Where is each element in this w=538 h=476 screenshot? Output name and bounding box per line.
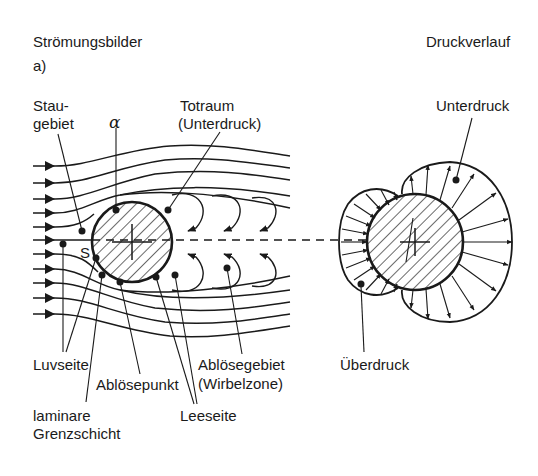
label-leeseite: Leeseite (180, 407, 237, 424)
label-staugebiet-1: Stau- (33, 97, 69, 114)
title-druckverlauf: Druckverlauf (426, 33, 511, 50)
label-unterdruck: Unterdruck (436, 97, 510, 114)
label-totraum-2: (Unterdruck) (178, 115, 261, 132)
label-stagnation-point: S (80, 244, 90, 261)
cylinder-left (92, 202, 172, 282)
label-luvseite: Luvseite (33, 356, 89, 373)
label-alpha: α (109, 112, 121, 132)
cylinder-right (367, 194, 463, 290)
label-abloesegebiet-2: (Wirbelzone) (198, 375, 283, 392)
flow-arrows (45, 161, 55, 319)
title-stroemungsbilder: Strömungsbilder (33, 33, 142, 50)
label-laminare-2: Grenzschicht (33, 425, 121, 442)
label-abloesegebiet-1: Ablösegebiet (198, 356, 286, 373)
label-abloesepunkt: Ablösepunkt (96, 376, 179, 393)
label-ueberdruck: Überdruck (340, 356, 410, 373)
label-totraum-1: Totraum (180, 97, 234, 114)
wake-vortices (172, 194, 276, 292)
label-staugebiet-2: gebiet (33, 115, 75, 132)
flow-around-cylinder-diagram: Strömungsbilder a) Druckverlauf (0, 0, 538, 476)
label-laminare-1: laminare (33, 407, 91, 424)
subfigure-label: a) (33, 57, 46, 74)
